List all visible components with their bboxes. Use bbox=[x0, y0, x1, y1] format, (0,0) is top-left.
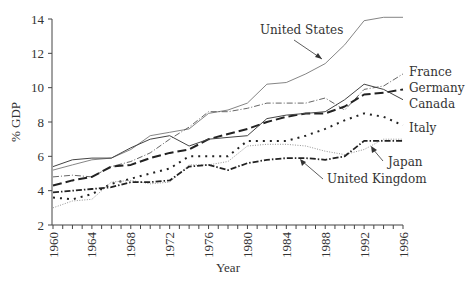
arrow-united-kingdom bbox=[302, 161, 323, 179]
series-line-canada bbox=[53, 84, 403, 166]
x-tick-label: 1960 bbox=[46, 232, 61, 258]
label-united-kingdom: United Kingdom bbox=[327, 172, 427, 186]
label-italy: Italy bbox=[409, 121, 437, 135]
arrowhead-icon bbox=[315, 53, 322, 59]
y-tick-label: 4 bbox=[38, 183, 45, 198]
label-united-states: United States bbox=[260, 23, 343, 37]
y-tick-label: 8 bbox=[38, 115, 45, 130]
y-tick-label: 10 bbox=[31, 80, 44, 95]
arrowhead-icon bbox=[371, 146, 377, 153]
y-tick-label: 14 bbox=[31, 12, 45, 27]
x-axis-title: Year bbox=[216, 260, 241, 275]
x-tick-label: 1968 bbox=[123, 232, 138, 258]
series-line-united-states bbox=[53, 17, 403, 170]
label-france: France bbox=[409, 65, 452, 79]
x-tick-label: 1988 bbox=[318, 232, 333, 258]
y-tick-label: 12 bbox=[31, 46, 44, 61]
x-tick-label: 1992 bbox=[357, 232, 372, 258]
line-chart: 2468101214196019641968197219761980198419… bbox=[0, 0, 470, 288]
y-tick-label: 6 bbox=[38, 149, 45, 164]
series-line-italy bbox=[53, 113, 403, 199]
y-axis-title: % GDP bbox=[8, 102, 23, 142]
y-tick-label: 2 bbox=[38, 218, 45, 233]
x-tick-label: 1980 bbox=[240, 232, 255, 258]
x-tick-label: 1984 bbox=[279, 232, 294, 259]
x-tick-label: 1972 bbox=[162, 232, 177, 258]
label-canada: Canada bbox=[409, 97, 455, 111]
x-tick-label: 1996 bbox=[396, 232, 411, 259]
arrowhead-icon bbox=[300, 159, 306, 166]
label-germany: Germany bbox=[409, 81, 465, 95]
axes: 2468101214196019641968197219761980198419… bbox=[31, 12, 411, 259]
x-tick-label: 1964 bbox=[84, 232, 99, 259]
x-tick-label: 1976 bbox=[201, 232, 216, 259]
label-japan: Japan bbox=[386, 155, 423, 169]
